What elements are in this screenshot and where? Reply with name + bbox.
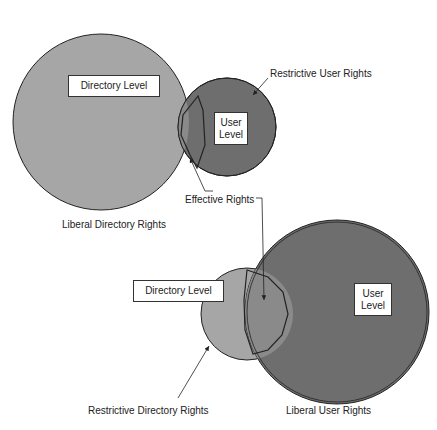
rights-diagram: Directory Level User Level Restrictive U…	[0, 0, 437, 430]
top-user-text-1: User	[220, 117, 241, 129]
diagram-graphics	[0, 0, 437, 430]
label-restrictive-directory-rights: Restrictive Directory Rights	[88, 405, 209, 417]
top-directory-level-box: Directory Level	[68, 75, 160, 97]
top-directory-level-text: Directory Level	[81, 80, 148, 92]
label-effective-rights: Effective Rights	[185, 194, 254, 206]
top-user-text-2: Level	[219, 129, 243, 141]
bottom-user-text-2: Level	[361, 300, 385, 312]
bottom-directory-level-text: Directory Level	[145, 285, 212, 297]
label-liberal-directory-rights: Liberal Directory Rights	[62, 219, 166, 231]
label-liberal-user-rights: Liberal User Rights	[286, 405, 371, 417]
label-restrictive-user-rights: Restrictive User Rights	[270, 68, 372, 80]
bottom-user-level-box: User Level	[354, 283, 392, 316]
bottom-directory-level-box: Directory Level	[133, 280, 224, 302]
bottom-user-text-1: User	[362, 288, 383, 300]
top-directory-circle	[13, 34, 189, 210]
top-user-level-box: User Level	[214, 112, 248, 145]
